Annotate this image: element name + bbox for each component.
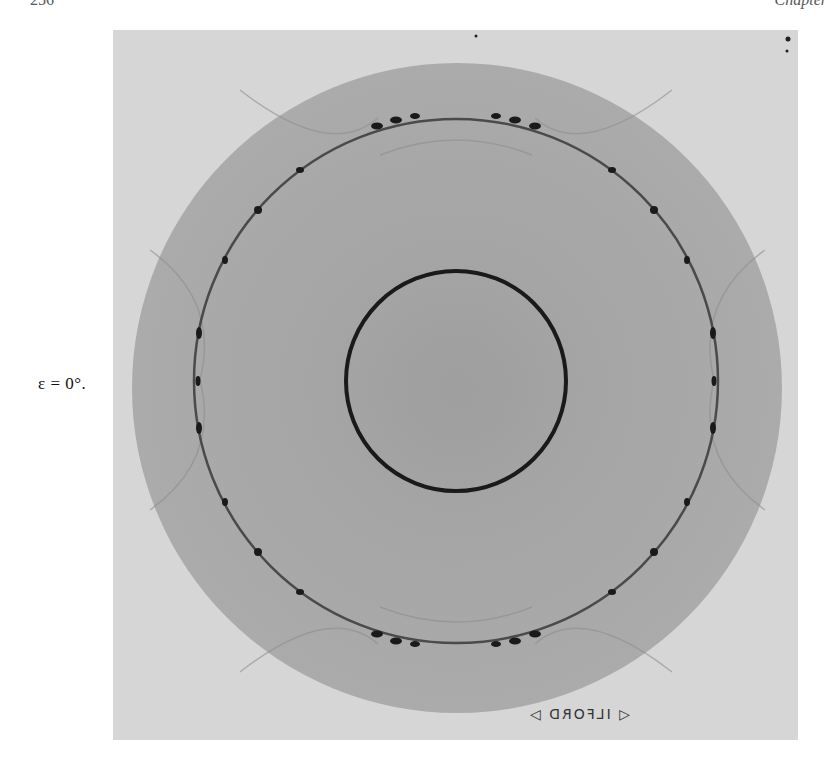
- diffraction-pattern: [113, 30, 798, 740]
- shadow-disc: [132, 63, 782, 713]
- diffraction-photograph: [113, 30, 798, 740]
- film-maker-mark: ◁ ILFORD ▷: [528, 706, 630, 722]
- figure-label: ε = 0°.: [38, 374, 86, 394]
- chapter-label: Chapter: [775, 0, 827, 9]
- page-header: 256 Chapter: [0, 0, 833, 5]
- page-number: 256: [30, 0, 54, 9]
